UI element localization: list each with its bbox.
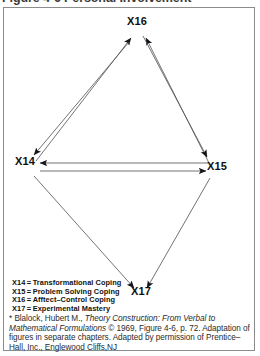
node-label-x15: X15 [207, 160, 227, 172]
edge-x16-x15-down [143, 36, 207, 157]
legend-value: Experimental Mastery [33, 304, 110, 313]
legend-equals: = [25, 295, 32, 304]
node-label-x14: X14 [15, 155, 35, 167]
node-label-x16: X16 [127, 15, 147, 27]
citation-asterisk: * [9, 314, 12, 323]
legend-row: X17=Experimental Mastery [12, 305, 172, 314]
path-diagram [0, 0, 260, 300]
edge-x16-x14-down [34, 42, 129, 155]
legend: X14=Transformational Coping X15=Problem … [12, 279, 172, 313]
figure-screenshot: Figure 4-6 Personal Involvement X16 [0, 0, 260, 356]
legend-key: X17 [12, 304, 25, 313]
citation-author: Blalock, Hubert M., [14, 314, 82, 323]
legend-equals: = [25, 304, 32, 313]
legend-equals: = [25, 278, 32, 287]
citation-note: * Blalock, Hubert M., Theory Constructio… [9, 314, 253, 352]
edge-x14-x17 [34, 176, 134, 288]
edge-x15-x17 [147, 178, 210, 288]
